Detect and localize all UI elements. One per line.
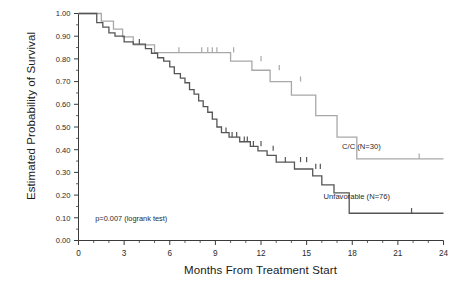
- survival-curve-cc: [79, 14, 444, 159]
- y-tick-label: 0.90: [56, 32, 71, 41]
- y-tick-label: 0.60: [56, 100, 71, 109]
- survival-curve-unfavorable: [79, 14, 444, 214]
- x-tick-label: 0: [76, 249, 81, 258]
- y-tick-label: 0.70: [56, 77, 71, 86]
- y-axis-label: Estimated Probability of Survival: [25, 1, 37, 231]
- x-tick-label: 3: [122, 249, 127, 258]
- y-tick-label: 0.80: [56, 55, 71, 64]
- pvalue-annotation: p=0.007 (logrank test): [95, 214, 167, 223]
- x-tick-label: 9: [213, 249, 218, 258]
- kaplan-meier-plot: 0.000.100.200.300.400.500.600.700.800.90…: [0, 0, 463, 297]
- x-tick-label: 6: [167, 249, 172, 258]
- x-axis: 03691215182124: [76, 241, 448, 258]
- survival-curves: [79, 14, 444, 214]
- y-tick-label: 0.00: [56, 236, 71, 245]
- legend-label-cc: C/C (N=30): [342, 142, 381, 151]
- y-tick-label: 1.00: [56, 9, 71, 18]
- chart-legend: C/C (N=30)Unfavorable (N=76): [324, 142, 391, 201]
- y-tick-label: 0.20: [56, 191, 71, 200]
- x-tick-label: 12: [256, 249, 266, 258]
- x-tick-label: 15: [302, 249, 312, 258]
- y-tick-label: 0.40: [56, 146, 71, 155]
- y-tick-label: 0.50: [56, 123, 71, 132]
- chart-annotations: p=0.007 (logrank test): [95, 214, 167, 223]
- x-tick-label: 18: [348, 249, 358, 258]
- x-tick-label: 21: [393, 249, 403, 258]
- y-tick-label: 0.10: [56, 214, 71, 223]
- x-axis-label: Months From Treatment Start: [78, 264, 443, 276]
- y-tick-label: 0.30: [56, 168, 71, 177]
- y-axis: 0.000.100.200.300.400.500.600.700.800.90…: [56, 9, 79, 245]
- survival-chart-figure: Estimated Probability of Survival Months…: [0, 0, 463, 297]
- legend-label-unfavorable: Unfavorable (N=76): [324, 192, 391, 201]
- x-tick-label: 24: [439, 249, 449, 258]
